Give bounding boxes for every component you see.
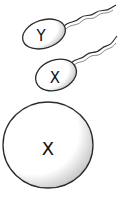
fertilization-illustration: Y X X [0,0,127,197]
egg-cell-label: X [42,138,54,159]
sperm-y-label: Y [35,27,46,45]
sperm-x-tail [71,36,117,63]
sperm-y-tail-inner [66,10,113,29]
sperm-x-tail-inner [73,43,116,66]
egg-cell-x: X [3,102,93,188]
sperm-cell-y: Y [19,5,116,54]
sperm-x-label: X [50,69,60,87]
sperm-y-tail [64,5,116,26]
